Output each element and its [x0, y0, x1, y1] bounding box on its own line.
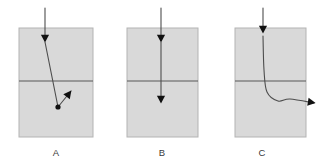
panel-b-box — [127, 28, 198, 137]
panel-c: C — [235, 8, 316, 158]
figure-root: ABC — [0, 0, 334, 168]
diagram-canvas: ABC — [0, 0, 334, 168]
panel-b: B — [127, 8, 198, 158]
panel-b-label: B — [159, 147, 165, 158]
panel-c-exit-arrowhead-glyph — [307, 98, 316, 107]
panel-a: A — [19, 8, 93, 158]
panel-c-box — [235, 28, 306, 137]
panel-a-label: A — [53, 147, 60, 158]
panel-c-exit-arrowhead — [307, 98, 316, 107]
panels-group: ABC — [19, 8, 316, 158]
panel-a-scatter-vertex — [55, 104, 60, 109]
panel-c-label: C — [259, 147, 266, 158]
panel-a-box — [19, 28, 93, 137]
